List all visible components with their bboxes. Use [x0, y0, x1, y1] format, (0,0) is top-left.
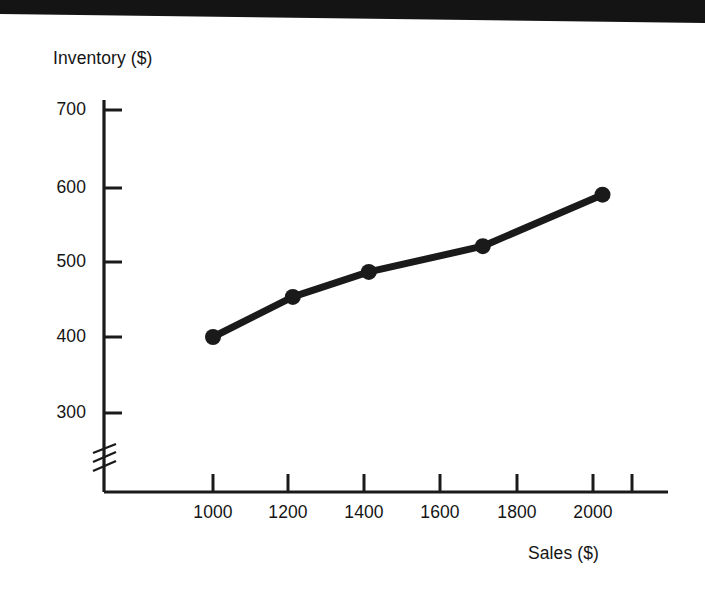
y-axis-title: Inventory ($) — [53, 48, 153, 69]
y-tick-label-500: 500 — [38, 251, 86, 272]
x-tick-label-1400: 1400 — [336, 502, 392, 523]
y-axis-break-icon — [93, 444, 116, 471]
x-tick-label-1800: 1800 — [489, 502, 545, 523]
x-tick-label-1200: 1200 — [260, 502, 316, 523]
x-tick-label-2000: 2000 — [565, 502, 621, 523]
series-line-inventory-vs-sales — [213, 195, 603, 337]
y-tick-label-700: 700 — [38, 99, 86, 120]
y-tick-label-400: 400 — [38, 326, 86, 347]
chart-figure: Inventory ($) Sales ($) 700 600 500 400 … — [0, 0, 705, 599]
x-tick-label-1000: 1000 — [185, 502, 241, 523]
x-axis-title: Sales ($) — [528, 543, 599, 564]
x-tick-marks — [213, 474, 632, 492]
data-point-marker — [475, 238, 491, 254]
data-point-marker — [361, 264, 377, 280]
data-point-marker — [205, 329, 221, 345]
x-tick-label-1600: 1600 — [412, 502, 468, 523]
data-point-marker — [595, 187, 611, 203]
y-tick-label-600: 600 — [38, 177, 86, 198]
data-point-marker — [285, 289, 301, 305]
y-tick-label-300: 300 — [38, 402, 86, 423]
y-tick-marks — [104, 110, 122, 413]
